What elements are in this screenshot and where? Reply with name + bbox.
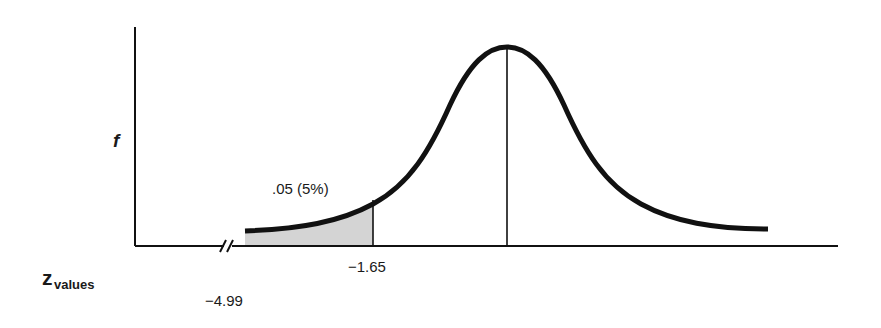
x-axis-label: z [42,266,53,289]
normal-curve-chart: f .05 (5%) −1.65 z values −4.99 [0,0,881,328]
axis-break-icon [220,240,233,252]
lower-bound-label: −4.99 [205,292,243,309]
y-axis-label: f [113,130,121,151]
critical-value-label: −1.65 [348,258,386,275]
area-annotation: .05 (5%) [272,180,329,197]
x-axis-label-subscript: values [54,277,94,292]
